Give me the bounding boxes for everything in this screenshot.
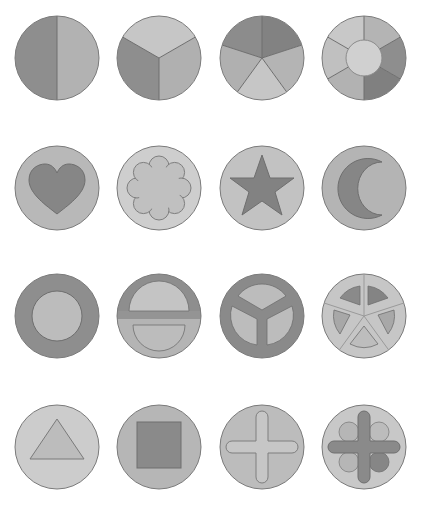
token-square [117, 405, 201, 489]
token-halves [15, 16, 99, 100]
token-star [220, 146, 304, 230]
token-fifths [220, 16, 304, 100]
token-cross-dots [322, 405, 406, 489]
token-five-spoke [322, 274, 406, 358]
token-flower [117, 146, 201, 230]
token-three-spoke [220, 274, 304, 358]
token-cross [220, 405, 304, 489]
token-ring [15, 274, 99, 358]
token-grid [0, 0, 422, 506]
token-crescent [322, 146, 406, 230]
token-heart [15, 146, 99, 230]
token-triangle [15, 405, 99, 489]
token-split-bar [117, 274, 201, 358]
square-icon [137, 422, 181, 468]
token-ring-sixths [322, 16, 406, 100]
token-thirds [117, 16, 201, 100]
